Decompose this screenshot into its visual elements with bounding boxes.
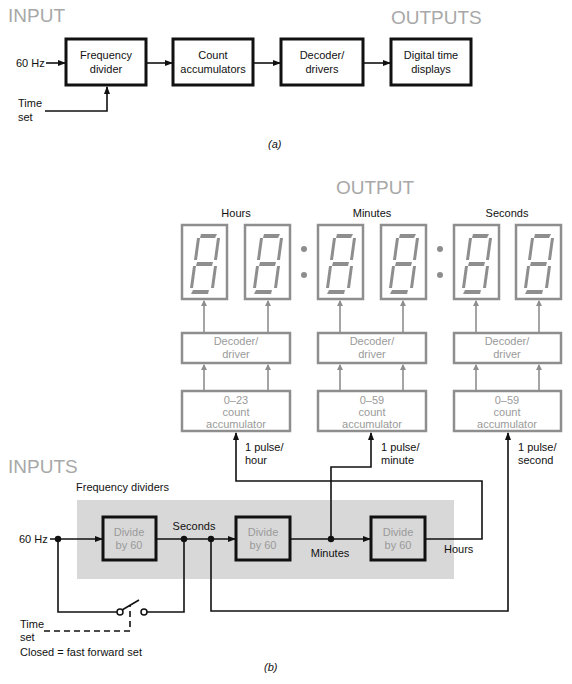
svg-text:accumulators: accumulators [180, 63, 246, 75]
svg-text:drivers: drivers [305, 63, 339, 75]
svg-text:divider: divider [90, 63, 123, 75]
input-heading: INPUT [8, 5, 65, 26]
caption-b: (b) [264, 661, 278, 673]
seconds-node-label: Seconds [173, 520, 216, 532]
input-signal-label-b: 60 Hz [19, 533, 48, 545]
svg-text:Count: Count [198, 49, 227, 61]
svg-text:Divide: Divide [248, 526, 279, 538]
divider-2: Divide by 60 [236, 517, 290, 560]
svg-text:by 60: by 60 [116, 539, 143, 551]
caption-a: (a) [268, 138, 282, 150]
time-set-label-b-line2: set [20, 631, 35, 643]
block-decoder-drivers: Decoder/ drivers [281, 39, 363, 85]
decoder-driver-hours: Decoder/ driver [182, 333, 290, 363]
digit-display-minutes-units [381, 225, 426, 299]
svg-text:by 60: by 60 [250, 539, 277, 551]
time-set-arrow-a [45, 87, 107, 111]
input-signal-label: 60 Hz [16, 57, 45, 69]
digit-display-seconds-units [516, 225, 561, 299]
svg-text:count: count [223, 406, 250, 418]
svg-text:Divide: Divide [114, 526, 145, 538]
block-count-accumulators: Count accumulators [173, 39, 253, 85]
svg-text:Digital time: Digital time [404, 49, 458, 61]
svg-text:Decoder/: Decoder/ [300, 49, 346, 61]
svg-text:Frequency: Frequency [80, 49, 132, 61]
svg-text:driver: driver [222, 348, 250, 360]
svg-text:Decoder/: Decoder/ [214, 335, 260, 347]
decoder-to-digit-arrows [204, 301, 539, 332]
divider-1: Divide by 60 [103, 517, 156, 560]
switch-contact-right [141, 609, 147, 615]
pulse-minute-line1: 1 pulse/ [381, 441, 420, 453]
switch-note: Closed = fast forward set [20, 646, 142, 658]
minutes-node-label: Minutes [311, 547, 350, 559]
svg-text:accumulator: accumulator [342, 418, 402, 430]
svg-text:displays: displays [411, 63, 451, 75]
svg-text:driver: driver [358, 348, 386, 360]
clock-block-diagram: INPUT OUTPUTS 60 Hz Frequency divider Co… [0, 0, 572, 684]
digit-display-minutes-tens [318, 225, 363, 299]
colon-hours-minutes [301, 246, 307, 278]
digit-display-hours-units [245, 225, 290, 299]
svg-text:by 60: by 60 [385, 539, 412, 551]
part-a: INPUT OUTPUTS 60 Hz Frequency divider Co… [8, 5, 482, 150]
inputs-heading: INPUTS [8, 456, 78, 477]
svg-text:count: count [359, 406, 386, 418]
digit-display-hours-tens [182, 225, 227, 299]
accumulator-to-decoder-arrows [204, 365, 539, 390]
pulse-hour-line2: hour [245, 454, 267, 466]
pulse-minute-line2: minute [381, 454, 414, 466]
seconds-label: Seconds [486, 207, 529, 219]
accumulator-hours: 0–23 count accumulator [182, 391, 290, 431]
hours-node-label: Hours [444, 543, 474, 555]
svg-text:0–23: 0–23 [224, 394, 248, 406]
decoder-driver-seconds: Decoder/ driver [454, 333, 561, 363]
svg-text:Divide: Divide [383, 526, 414, 538]
accumulator-minutes: 0–59 count accumulator [318, 391, 426, 431]
colon-minutes-seconds [437, 246, 443, 278]
block-frequency-divider: Frequency divider [66, 39, 146, 85]
frequency-dividers-heading: Frequency dividers [76, 481, 169, 493]
time-set-label-a-line2: set [18, 111, 33, 123]
hours-label: Hours [221, 207, 251, 219]
part-b: OUTPUT Hours Minutes Seconds [8, 177, 561, 673]
decoder-driver-minutes: Decoder/ driver [318, 333, 426, 363]
digit-display-seconds-tens [454, 225, 499, 299]
time-set-dashed-link [44, 605, 130, 631]
output-heading: OUTPUT [336, 177, 415, 198]
time-set-label-a-line1: Time [18, 97, 42, 109]
pulse-second-line2: second [518, 454, 553, 466]
svg-text:accumulator: accumulator [477, 418, 537, 430]
block-digital-time-displays: Digital time displays [391, 39, 471, 85]
accumulator-seconds: 0–59 count accumulator [454, 391, 561, 431]
outputs-heading: OUTPUTS [391, 7, 482, 28]
svg-text:Decoder/: Decoder/ [485, 335, 531, 347]
time-set-label-b-line1: Time [20, 618, 44, 630]
svg-text:0–59: 0–59 [495, 394, 519, 406]
svg-text:driver: driver [493, 348, 521, 360]
svg-text:accumulator: accumulator [206, 418, 266, 430]
divider-3: Divide by 60 [371, 517, 425, 560]
pulse-hour-line1: 1 pulse/ [245, 441, 284, 453]
svg-text:Decoder/: Decoder/ [350, 335, 396, 347]
svg-text:count: count [494, 406, 521, 418]
pulse-second-line1: 1 pulse/ [518, 441, 557, 453]
minutes-label: Minutes [353, 207, 392, 219]
svg-text:0–59: 0–59 [360, 394, 384, 406]
